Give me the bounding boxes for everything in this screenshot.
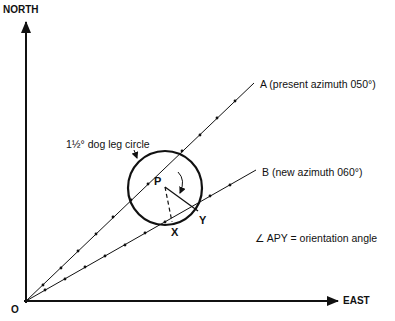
- east-label: EAST: [343, 295, 370, 306]
- line-b-label: B (new azimuth 060°): [262, 166, 363, 178]
- line-a-present-azimuth: [26, 83, 254, 301]
- origin-label: O: [11, 304, 19, 315]
- line-a-label: A (present azimuth 050°): [260, 78, 376, 90]
- point-p-label: P: [154, 175, 161, 187]
- dog-leg-diagram: NORTH EAST O A (present azimuth 050°) B …: [0, 0, 395, 321]
- angle-note: ∠ APY = orientation angle: [255, 232, 377, 244]
- orientation-construction: [165, 172, 198, 222]
- circle-label: 1½° dog leg circle: [66, 138, 150, 150]
- point-y-label: Y: [199, 214, 207, 226]
- point-x-label: X: [171, 226, 179, 238]
- line-b-new-azimuth: [26, 170, 256, 301]
- north-label: NORTH: [3, 4, 39, 15]
